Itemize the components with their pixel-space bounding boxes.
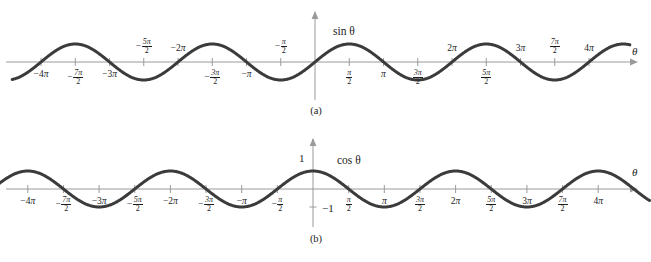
y-axis-arrowhead (312, 11, 319, 19)
x-axis-arrowhead (630, 59, 638, 66)
x-axis-tick-label: −5π2 (127, 196, 143, 214)
x-axis-tick-label: 2π (451, 197, 461, 207)
x-axis-tick-label: 5π2 (486, 196, 496, 214)
x-axis-tick-label: 3π2 (413, 69, 423, 87)
x-axis-tick-label: −7π2 (56, 196, 72, 214)
cosine-y-tick-label-1: 1 (299, 153, 305, 164)
x-axis-tick-label: π2 (346, 196, 352, 214)
x-axis-tick-label: −3π (92, 197, 107, 207)
x-axis-tick-label: 3π (522, 197, 532, 207)
cosine-y-tick-label-minus1: −1 (322, 203, 334, 214)
cosine-curve-label: cos θ (337, 155, 361, 167)
sine-curve-label: sin θ (333, 26, 355, 38)
sine-plot-panel: sin θ θ (a) −4π−7π2−3π−5π2−2π−3π2−π−π2π2… (0, 0, 651, 131)
x-axis-tick-label: π (381, 70, 386, 80)
x-axis-tick-label: −7π2 (67, 69, 83, 87)
trig-functions-figure: sin θ θ (a) −4π−7π2−3π−5π2−2π−3π2−π−π2π2… (0, 0, 651, 262)
panel-caption-b: (b) (310, 234, 322, 245)
x-axis-tick-label: −3π2 (204, 69, 220, 87)
x-axis-tick-label: −3π (102, 70, 117, 80)
y-axis-arrowhead (310, 138, 317, 146)
sine-plot-canvas (0, 0, 651, 131)
x-axis-tick-label: 3π (516, 44, 526, 54)
x-axis-tick-label: 3π2 (415, 196, 425, 214)
cosine-plot-panel: cos θ θ 1 −1 (b) −4π−7π2−3π−5π2−2π−3π2−π… (0, 131, 651, 262)
x-axis-tick-label: 2π (447, 44, 457, 54)
x-axis-tick-label: 5π2 (481, 69, 491, 87)
x-axis-tick-label: −2π (163, 197, 178, 207)
x-axis-tick-label: 7π2 (550, 38, 560, 56)
x-axis-tick-label: π2 (346, 69, 352, 87)
cosine-x-axis-label: θ (632, 167, 637, 178)
x-axis-tick-label: −π2 (271, 196, 283, 214)
x-axis-tick-label: −π2 (275, 38, 287, 56)
x-axis-tick-label: −2π (171, 44, 186, 54)
x-axis-tick-label: 4π (584, 44, 594, 54)
x-axis-tick-label: −π (237, 197, 247, 207)
x-axis-tick-label: −π (241, 70, 251, 80)
x-axis-tick-label: −4π (20, 197, 35, 207)
x-axis-tick-label: −4π (34, 70, 49, 80)
sine-x-axis-label: θ (632, 46, 637, 57)
panel-caption-a: (a) (310, 106, 322, 117)
x-axis-tick-label: −3π2 (198, 196, 214, 214)
x-axis-tick-label: 7π2 (558, 196, 568, 214)
x-axis-tick-label: 4π (593, 197, 603, 207)
x-axis-tick-label: π (382, 197, 387, 207)
x-axis-tick-label: −5π2 (136, 38, 152, 56)
